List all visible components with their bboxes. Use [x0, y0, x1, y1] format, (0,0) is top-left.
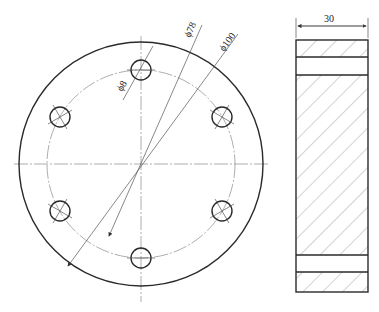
front-view: ϕ8 ϕ78 ϕ100: [14, 20, 270, 302]
bolt-circle-dimension-line: [109, 25, 202, 236]
width-label: 30: [324, 13, 334, 24]
bolt-circle-diameter-label: ϕ78: [182, 20, 198, 38]
section-view: 30: [296, 13, 368, 292]
hatched-band-bottom: [296, 272, 368, 292]
hole-dimension-line: [123, 46, 153, 100]
outer-dimension-line: [68, 34, 238, 266]
hole-diameter-label: ϕ8: [114, 79, 129, 93]
hatched-band-top: [296, 40, 368, 57]
engineering-drawing: ϕ8 ϕ78 ϕ100 30: [0, 0, 379, 312]
hatched-band-middle: [296, 75, 368, 255]
outer-diameter-label: ϕ100: [217, 30, 238, 53]
